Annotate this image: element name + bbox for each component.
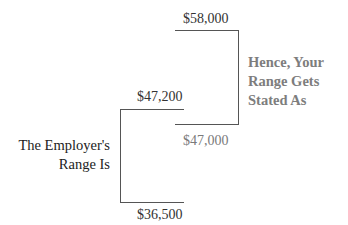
stated-range-low-value: $47,000 [183, 133, 229, 149]
employer-range-vertical-line [120, 109, 121, 203]
employer-range-caption-line2: Range Is [18, 155, 110, 174]
employer-range-top-line [120, 109, 184, 110]
stated-range-caption-line2: Range Gets [248, 72, 324, 91]
employer-range-caption: The Employer's Range Is [18, 136, 110, 174]
stated-range-caption-line3: Stated As [248, 91, 324, 110]
stated-range-top-line [175, 30, 239, 31]
employer-range-high-value: $47,200 [137, 89, 183, 105]
stated-range-caption-line1: Hence, Your [248, 53, 324, 72]
stated-range-vertical-line [238, 30, 239, 125]
employer-range-caption-line1: The Employer's [18, 136, 110, 155]
stated-range-bottom-line [175, 124, 239, 125]
stated-range-high-value: $58,000 [183, 11, 229, 27]
employer-range-bottom-line [120, 202, 184, 203]
stated-range-caption: Hence, Your Range Gets Stated As [248, 53, 324, 110]
employer-range-low-value: $36,500 [137, 207, 183, 223]
